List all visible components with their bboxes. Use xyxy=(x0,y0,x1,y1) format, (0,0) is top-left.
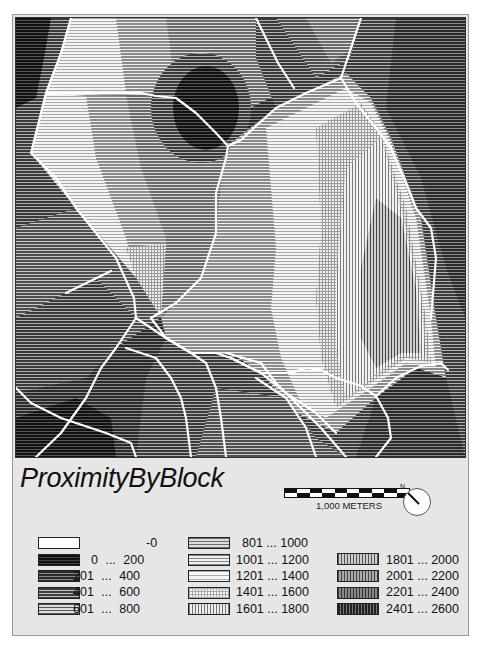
north-arrow-icon xyxy=(403,488,431,516)
legend-label: 801 ... 1000 xyxy=(242,536,308,550)
legend-swatch xyxy=(188,603,230,615)
legend-swatch xyxy=(188,554,230,566)
legend-label: 201 ... 400 xyxy=(73,569,140,583)
legend-swatch xyxy=(38,554,80,566)
legend-swatch xyxy=(337,553,379,565)
map-title: ProximityByBlock xyxy=(20,463,224,494)
legend-label: 1601 ... 1800 xyxy=(236,602,309,616)
legend-label: 1201 ... 1400 xyxy=(236,569,309,583)
legend-swatch xyxy=(337,603,379,615)
legend-label: 601 ... 800 xyxy=(73,602,140,616)
legend-swatch xyxy=(188,587,230,599)
proximity-map xyxy=(15,17,466,458)
legend-swatch xyxy=(337,587,379,599)
legend-label: 2201 ... 2400 xyxy=(386,585,459,599)
scale-bar-label: 1,000 METERS xyxy=(316,500,382,511)
legend-label: 1401 ... 1600 xyxy=(236,585,309,599)
legend-label: -0 xyxy=(146,536,157,550)
legend-label: 0 ... 200 xyxy=(91,553,144,567)
legend-swatch xyxy=(38,537,80,549)
legend-swatch xyxy=(188,570,230,582)
legend-label: 1001 ... 1200 xyxy=(236,553,309,567)
legend-label: 401 ... 600 xyxy=(73,585,140,599)
legend-label: 2401 ... 2600 xyxy=(386,602,459,616)
legend-swatch xyxy=(188,537,230,549)
scale-bar xyxy=(284,488,410,498)
legend-swatch xyxy=(337,570,379,582)
legend-label: 2001 ... 2200 xyxy=(386,569,459,583)
legend-label: 1801 ... 2000 xyxy=(386,553,459,567)
